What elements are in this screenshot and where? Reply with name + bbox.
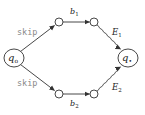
automaton-diagram: qo q• skip skip b1 b2 E1 E2 <box>0 0 145 115</box>
node-lower-2 <box>90 90 98 98</box>
b1-label: b1 <box>70 7 79 17</box>
node-upper-2 <box>90 18 98 26</box>
E1-label: E1 <box>111 27 122 38</box>
b2-label: b2 <box>70 99 79 109</box>
skip-label-bottom: skip <box>17 78 37 88</box>
node-upper-1 <box>55 18 63 26</box>
skip-label-top: skip <box>17 27 37 37</box>
node-lower-1 <box>55 90 63 98</box>
E2-label: E2 <box>111 82 122 93</box>
